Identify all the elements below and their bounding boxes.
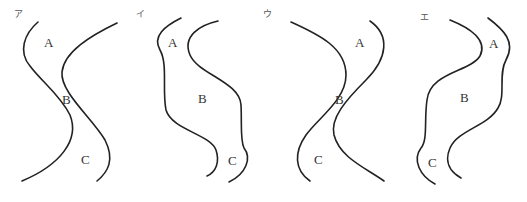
- label-c: C: [228, 153, 237, 168]
- option-label: ウ: [263, 9, 272, 19]
- label-b: B: [198, 91, 207, 106]
- option-label: イ: [136, 9, 145, 19]
- label-c: C: [81, 152, 90, 167]
- option-label: ア: [14, 9, 23, 19]
- label-b: B: [335, 92, 344, 107]
- panel-e: エ A B C: [417, 12, 509, 184]
- label-a: A: [44, 35, 54, 50]
- panel-i: イ A B C: [136, 9, 248, 182]
- label-b: B: [62, 92, 71, 107]
- panel-a: ア A B C: [14, 9, 117, 181]
- label-b: B: [460, 90, 469, 105]
- label-c: C: [428, 155, 437, 170]
- label-c: C: [314, 152, 323, 167]
- right-curve: [448, 18, 510, 178]
- diagram-canvas: ア A B C イ A B C ウ A B C エ A B C: [0, 0, 527, 202]
- label-a: A: [355, 35, 365, 50]
- left-curve: [417, 20, 482, 184]
- label-a: A: [168, 35, 178, 50]
- left-curve: [158, 18, 218, 176]
- label-a: A: [489, 36, 499, 51]
- option-label: エ: [420, 12, 429, 22]
- panel-u: ウ A B C: [263, 9, 384, 181]
